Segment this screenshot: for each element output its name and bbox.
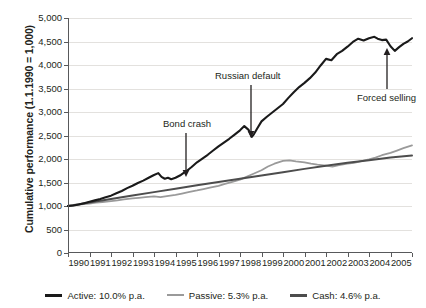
y-axis-tick-label: 0 [16,248,62,258]
y-axis-tick-label: 4,000 [16,60,62,70]
y-axis-tick-label: 3,000 [16,107,62,117]
x-axis-labels: 1990199119921993199419951996199719981999… [68,253,412,273]
y-axis-tick-label: 2,500 [16,131,62,141]
series-line-active [68,37,412,206]
annotation-label-forced-selling: Forced selling [357,92,416,103]
y-axis-tick-label: 5,000 [16,13,62,23]
annotation-label-russian-default: Russian default [215,70,280,81]
legend-label-cash: Cash: 4.6% p.a. [312,290,380,301]
legend-swatch-cash [290,294,307,297]
y-axis-tick-label: 4,500 [16,37,62,47]
legend-item-cash[interactable]: Cash: 4.6% p.a. [290,290,380,301]
legend-swatch-passive [167,294,184,297]
legend-item-passive[interactable]: Passive: 5.3% p.a. [167,290,268,301]
series-line-cash [68,155,412,206]
annotation-label-bond-crash: Bond crash [163,118,211,129]
plot-area [68,18,412,253]
x-axis-tick-mark [412,253,413,257]
legend-label-passive: Passive: 5.3% p.a. [189,290,268,301]
y-axis-line [68,18,69,253]
y-axis-tick-label: 2,000 [16,154,62,164]
chart-container: Cumulative performance (1.1.1990 = 1,000… [0,0,426,308]
y-axis-tick-label: 1,000 [16,201,62,211]
legend-item-active[interactable]: Active: 10.0% p.a. [45,290,144,301]
legend-swatch-active [45,294,62,297]
chart-legend: Active: 10.0% p.a.Passive: 5.3% p.a.Cash… [0,287,426,303]
y-axis-tick-label: 500 [16,225,62,235]
y-axis-tick-label: 3,500 [16,84,62,94]
legend-label-active: Active: 10.0% p.a. [67,290,144,301]
y-axis-tick-label: 1,500 [16,178,62,188]
series-lines [68,18,412,253]
x-axis-tick-label: 2005 [386,258,416,269]
